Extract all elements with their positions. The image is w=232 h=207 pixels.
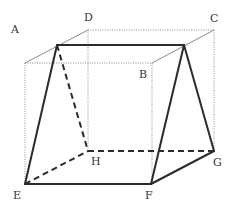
prism-solid-edges [25, 45, 214, 184]
cube-diagram: A D C B H G E F [0, 0, 232, 207]
edge-FG [151, 151, 214, 184]
edge-PH [57, 45, 88, 151]
hidden-edges [25, 45, 214, 184]
label-B: B [139, 68, 147, 81]
vertex-labels: A D C B H G E F [10, 11, 222, 202]
label-F: F [145, 189, 153, 202]
label-H: H [91, 155, 101, 168]
label-C: C [210, 12, 218, 25]
diagram-canvas: A D C B H G E F [0, 0, 232, 207]
label-G: G [213, 156, 222, 169]
edge-PE [25, 45, 57, 184]
edge-QF [151, 45, 184, 184]
label-E: E [13, 189, 21, 202]
edge-QG [184, 45, 214, 151]
label-D: D [84, 11, 93, 24]
edge-EH [25, 151, 88, 184]
label-A: A [10, 23, 20, 36]
